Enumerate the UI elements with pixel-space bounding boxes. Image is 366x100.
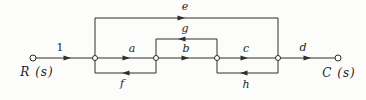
arrow-left-gain-g-icon — [178, 36, 186, 41]
signal-flow-graph-figure: 1 a b c d e g f h R (s) C (s) — [0, 0, 366, 100]
arrow-left-gain-h-icon — [240, 70, 248, 75]
output-node-circle — [335, 55, 341, 61]
arrow-left-gain-f-icon — [122, 70, 130, 75]
gain-label-c: c — [243, 42, 249, 55]
arrow-right-gain-b-icon — [182, 55, 190, 60]
node-4-circle — [276, 56, 281, 61]
signal-flow-graph-canvas: 1 a b c d e g f h R (s) C (s) — [0, 0, 366, 100]
input-node-circle — [30, 55, 36, 61]
gain-label-h: h — [242, 78, 249, 91]
gain-label-d: d — [299, 41, 306, 54]
gain-label-f: f — [119, 77, 126, 90]
output-terminal-label: C (s) — [322, 66, 356, 80]
gain-label-g: g — [181, 22, 188, 35]
node-3-circle — [215, 56, 220, 61]
node-1-circle — [93, 56, 98, 61]
arrow-right-gain-c-icon — [241, 55, 249, 60]
arrow-right-gain-d-icon — [304, 55, 312, 60]
arrow-right-gain-1-icon — [64, 55, 72, 60]
arrow-right-gain-a-icon — [123, 55, 131, 60]
gain-label-b: b — [182, 42, 189, 55]
node-2-circle — [154, 56, 159, 61]
branch-f-feedback-line — [95, 58, 156, 73]
input-terminal-label: R (s) — [19, 65, 53, 79]
arrow-right-gain-e-icon — [178, 15, 186, 20]
gain-label-e: e — [182, 0, 189, 13]
gain-label-1: 1 — [57, 41, 64, 54]
gain-label-a: a — [129, 42, 136, 55]
